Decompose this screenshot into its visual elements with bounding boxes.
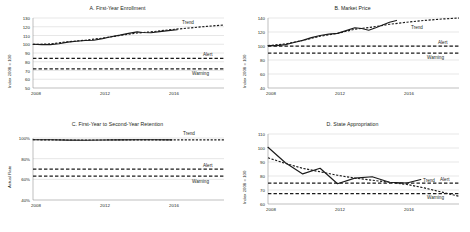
panel-a-ytick-70: 70	[16, 68, 30, 73]
panel-a-trend-series	[33, 25, 224, 44]
panel-b-ytick-120: 120	[251, 30, 265, 35]
panel-c-actual-series	[33, 140, 172, 141]
panel-a-ytick-110: 110	[16, 33, 30, 38]
chart-panel-d: D. State Appropriation Index 2008 = 100	[235, 116, 470, 232]
chart-panel-a: A. First-Year Enrollment Index 2008 = 10…	[0, 0, 235, 116]
panel-c-xtick-2008: 2008	[31, 203, 41, 208]
panel-b-ytick-80: 80	[251, 58, 265, 63]
panel-b-trend-label: Trend	[411, 25, 423, 30]
panel-d-ytick-60: 60	[251, 202, 265, 207]
panel-b-alert-label: Alert	[438, 40, 447, 45]
panel-d-ylabel: Index 2008 = 100	[242, 171, 247, 204]
panel-d-plot: 110 100 90 80 70 60 2008 2012 2016 Trend…	[268, 134, 459, 204]
panel-a-ytick-80: 80	[16, 59, 30, 64]
panel-c-xtick-2016: 2016	[169, 203, 179, 208]
panel-c-alert-label: Alert	[203, 163, 212, 168]
panel-d-alert-label: Alert	[440, 177, 449, 182]
panel-c-trend-label: Trend	[183, 131, 195, 136]
panel-a-ytick-100: 100	[16, 42, 30, 47]
chart-panel-grid: A. First-Year Enrollment Index 2008 = 10…	[0, 0, 470, 232]
panel-b-ytick-140: 140	[251, 16, 265, 21]
panel-a-xtick-2012: 2012	[100, 91, 110, 96]
panel-a-ytick-60: 60	[16, 77, 30, 82]
panel-d-ytick-70: 70	[251, 188, 265, 193]
panel-a-xtick-2016: 2016	[169, 91, 179, 96]
panel-b-xtick-2012: 2012	[335, 91, 345, 96]
panel-d-xtick-2016: 2016	[404, 207, 414, 212]
panel-a-gridlines	[33, 18, 224, 88]
panel-b-xtick-2008: 2008	[266, 91, 276, 96]
panel-a-ytick-50: 50	[16, 86, 30, 91]
panel-d-ytick-100: 100	[251, 146, 265, 151]
chart-panel-b: B. Market Price Index 2008 = 100 140	[235, 0, 470, 116]
panel-a-ytick-130: 130	[16, 16, 30, 21]
panel-d-xtick-2012: 2012	[335, 207, 345, 212]
panel-d-trend-label: Trend	[423, 178, 435, 183]
panel-b-title: B. Market Price	[235, 5, 470, 11]
panel-b-ytick-40: 40	[251, 86, 265, 91]
panel-a-warning-label: Warning	[192, 71, 209, 76]
panel-a-title: A. First-Year Enrollment	[0, 5, 235, 11]
panel-a-ylabel: Index 2008 = 100	[7, 55, 12, 88]
panel-a-xtick-2008: 2008	[31, 91, 41, 96]
panel-c-plot: 100% 80% 60% 40% 2008 2012 2016 Trend Al…	[33, 138, 224, 200]
panel-c-title: C. First-Year to Second-Year Retention	[0, 121, 235, 127]
panel-a-alert-label: Alert	[203, 52, 212, 57]
panel-b-ylabel: Index 2008 = 100	[242, 55, 247, 88]
panel-b-ytick-100: 100	[251, 44, 265, 49]
panel-c-warning-label: Warning	[192, 179, 209, 184]
panel-d-xtick-2008: 2008	[266, 207, 276, 212]
panel-a-trend-label: Trend	[182, 20, 194, 25]
panel-c-ylabel: Actual Rate	[7, 166, 12, 188]
panel-d-ytick-110: 110	[251, 132, 265, 137]
panel-c-ytick-60: 60%	[14, 177, 30, 182]
panel-d-title: D. State Appropriation	[235, 121, 470, 127]
panel-c-ytick-80: 80%	[14, 156, 30, 161]
panel-c-xtick-2012: 2012	[100, 203, 110, 208]
panel-a-plot: 130 120 110 100 90 80 70 60 50 2008 2012…	[33, 18, 224, 88]
panel-b-actual-series	[268, 20, 397, 45]
panel-c-ytick-100: 100%	[14, 136, 30, 141]
panel-b-xtick-2016: 2016	[404, 91, 414, 96]
panel-d-ytick-80: 80	[251, 174, 265, 179]
panel-a-ytick-120: 120	[16, 24, 30, 29]
panel-d-ytick-90: 90	[251, 160, 265, 165]
panel-a-ytick-90: 90	[16, 51, 30, 56]
chart-panel-c: C. First-Year to Second-Year Retention A…	[0, 116, 235, 232]
panel-b-warning-label: Warning	[427, 55, 444, 60]
panel-d-warning-label: Warning	[427, 195, 444, 200]
panel-c-ytick-40: 40%	[14, 198, 30, 203]
panel-b-plot: 140 120 100 80 60 40 2008 2012 2016 Tren…	[268, 18, 459, 88]
panel-b-ytick-60: 60	[251, 72, 265, 77]
